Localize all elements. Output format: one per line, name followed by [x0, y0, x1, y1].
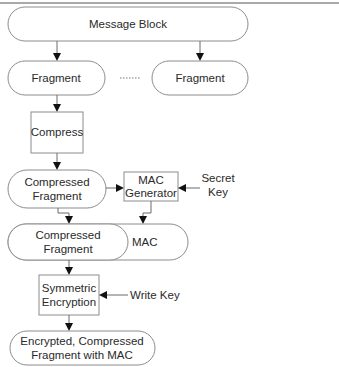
arrowhead-icon: [139, 216, 147, 224]
compressed-fragment-mac-node: Compressed Fragment MAC: [8, 224, 188, 260]
secret-key-line1: Secret: [201, 172, 235, 184]
arrowhead-icon: [99, 291, 107, 299]
arrowhead-icon: [65, 267, 73, 275]
compressed-fragment-node: Compressed Fragment: [8, 170, 106, 208]
output-node: Encrypted, Compressed Fragment with MAC: [10, 331, 155, 365]
message-block-label: Message Block: [89, 18, 167, 30]
arrowhead-icon: [65, 323, 73, 331]
arrowhead-icon: [53, 53, 61, 61]
output-line1: Encrypted, Compressed: [20, 335, 143, 347]
fragment-2-label: Fragment: [175, 72, 225, 84]
fragment-1-node: Fragment: [8, 61, 105, 95]
mac-generator-line2: Generator: [125, 187, 177, 199]
edge-secret-key-to-mac-generator: [178, 184, 200, 192]
fragment-2-node: Fragment: [152, 61, 248, 95]
arrowhead-icon: [53, 104, 61, 112]
compressed-fragment-line1: Compressed: [24, 176, 89, 188]
edge-compressed-fragment-to-combined: [58, 208, 73, 224]
message-block-node: Message Block: [8, 7, 248, 41]
mac-generator-node: MAC Generator: [124, 172, 178, 201]
write-key-label: Write Key: [130, 289, 180, 301]
fragment-1-label: Fragment: [31, 72, 81, 84]
edge-mac-generator-to-combined: [139, 201, 151, 224]
edge-write-key-to-encryption: [99, 291, 128, 299]
arrowhead-icon: [116, 184, 124, 192]
edge-compress-to-compressed-fragment: [53, 153, 61, 170]
symmetric-encryption-line2: Encryption: [42, 296, 96, 308]
arrowhead-icon: [196, 53, 204, 61]
combined-mac-label: MAC: [132, 236, 158, 248]
compress-label: Compress: [31, 126, 84, 138]
mac-generator-line1: MAC: [138, 174, 164, 186]
arrowhead-icon: [65, 216, 73, 224]
symmetric-encryption-shape: [39, 275, 99, 315]
edge-message-to-fragment-1: [53, 41, 61, 61]
flowchart-canvas: Message Block Fragment Fragment Compress: [0, 0, 339, 367]
output-line2: Fragment with MAC: [31, 349, 133, 361]
symmetric-encryption-node: Symmetric Encryption: [39, 275, 99, 315]
arrowhead-icon: [178, 184, 186, 192]
edge-combined-to-encryption: [65, 260, 73, 275]
combined-line2: Fragment: [43, 243, 93, 255]
edge-message-to-fragment-2: [196, 41, 204, 61]
edge-encryption-to-output: [65, 315, 73, 331]
combined-line1: Compressed: [35, 229, 100, 241]
arrowhead-icon: [53, 162, 61, 170]
compress-node: Compress: [31, 112, 84, 153]
compressed-fragment-line2: Fragment: [32, 190, 82, 202]
edge-fragment-to-compress: [53, 95, 61, 112]
secret-key-line2: Key: [208, 186, 228, 198]
secret-key-label: Secret Key: [201, 172, 235, 198]
edge-compressed-fragment-to-mac-generator: [106, 184, 124, 192]
symmetric-encryption-line1: Symmetric: [42, 282, 97, 294]
